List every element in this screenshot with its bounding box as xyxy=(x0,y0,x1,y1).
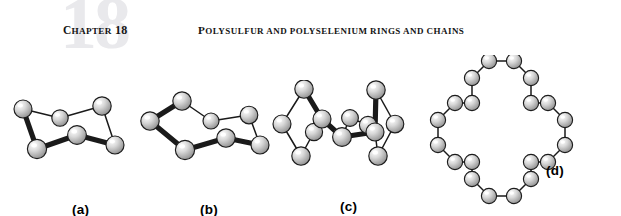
atom-highlight xyxy=(370,127,375,131)
atom-sphere xyxy=(506,55,521,69)
atom-sphere xyxy=(217,129,235,147)
atom-sphere xyxy=(366,123,384,141)
atom-highlight xyxy=(144,115,150,119)
atom-highlight xyxy=(55,113,60,117)
atom-highlight xyxy=(560,115,565,118)
atom-sphere xyxy=(557,137,572,152)
atom-highlight xyxy=(345,113,350,117)
atom-highlight xyxy=(450,98,455,101)
atom-highlight xyxy=(336,131,342,135)
atom-sphere xyxy=(447,154,462,169)
molecular-structures-figure: (a) (b) (c) (d) xyxy=(0,55,621,216)
atom-sphere xyxy=(173,92,191,110)
atom-sphere xyxy=(175,140,194,159)
atom-highlight xyxy=(484,56,489,59)
panel-label-c: (c) xyxy=(340,199,357,214)
atom-highlight xyxy=(467,73,472,76)
panel-b-canvas xyxy=(138,83,278,173)
atom-highlight xyxy=(543,157,548,160)
atom-sphere xyxy=(273,115,291,133)
atom-sphere xyxy=(93,97,111,115)
atom-highlight xyxy=(433,115,438,118)
atom-sphere xyxy=(523,70,538,85)
chapter-label: CHAPTER 18 xyxy=(63,23,128,38)
atom-sphere xyxy=(430,137,445,152)
atom-highlight xyxy=(110,140,115,144)
atom-sphere xyxy=(240,106,258,124)
structure-panel-d xyxy=(414,55,604,215)
atom-highlight xyxy=(255,140,260,144)
atom-sphere xyxy=(464,171,479,186)
running-head: POLYSULFUR AND POLYSELENIUM RINGS AND CH… xyxy=(198,24,464,36)
atom-sphere xyxy=(540,95,555,110)
atom-sphere xyxy=(481,55,496,69)
atom-sphere xyxy=(292,147,310,165)
atom-highlight xyxy=(526,98,531,101)
chapter-number: 18 xyxy=(115,23,128,37)
atom-group xyxy=(273,80,404,165)
atom-sphere xyxy=(68,126,87,145)
atom-sphere xyxy=(295,80,313,98)
atom-highlight xyxy=(390,119,395,123)
atom-sphere xyxy=(447,95,462,110)
atom-highlight xyxy=(179,144,185,148)
atom-highlight xyxy=(467,174,472,177)
atom-sphere xyxy=(251,136,269,154)
atom-sphere xyxy=(369,147,387,165)
panel-a-canvas xyxy=(12,83,137,173)
atom-highlight xyxy=(220,132,226,136)
chapter-label-lead: C xyxy=(63,24,72,36)
atom-sphere xyxy=(506,188,521,203)
panel-d-canvas xyxy=(414,55,604,215)
atom-sphere xyxy=(106,136,124,154)
page-header: 18 CHAPTER 18 POLYSULFUR AND POLYSELENIU… xyxy=(0,0,621,60)
panel-label-b: (b) xyxy=(200,202,218,216)
atom-sphere xyxy=(333,128,352,147)
atom-sphere xyxy=(464,95,479,110)
atom-highlight xyxy=(467,98,472,101)
atom-sphere xyxy=(464,70,479,85)
atom-highlight xyxy=(363,120,368,124)
atom-sphere xyxy=(141,112,159,130)
atom-sphere xyxy=(367,81,385,99)
structure-panel-b xyxy=(138,83,278,173)
atom-highlight xyxy=(96,100,102,104)
atom-sphere xyxy=(464,154,479,169)
structure-panel-c xyxy=(272,80,412,175)
atom-highlight xyxy=(484,191,489,194)
atom-highlight xyxy=(467,157,472,160)
atom-highlight xyxy=(370,84,376,88)
atom-highlight xyxy=(526,174,531,177)
atom-group xyxy=(141,92,269,160)
panel-label-a: (a) xyxy=(72,202,89,216)
atom-highlight xyxy=(309,127,314,131)
atom-highlight xyxy=(244,110,249,114)
atom-sphere xyxy=(203,113,219,129)
atom-highlight xyxy=(509,56,514,59)
atom-highlight xyxy=(509,191,514,194)
atom-highlight xyxy=(31,143,37,147)
panel-c-canvas xyxy=(272,80,412,175)
atom-sphere xyxy=(386,115,404,133)
atom-highlight xyxy=(526,157,531,160)
structure-panel-a xyxy=(12,83,137,173)
atom-highlight xyxy=(317,114,322,118)
running-head-rest: OLYSULFUR AND POLYSELENIUM RINGS AND CHA… xyxy=(205,26,464,36)
atom-highlight xyxy=(526,73,531,76)
panel-label-d: (d) xyxy=(546,163,564,178)
atom-sphere xyxy=(523,154,538,169)
atom-sphere xyxy=(481,188,496,203)
atom-sphere xyxy=(52,110,68,126)
atom-highlight xyxy=(372,150,378,154)
atom-group xyxy=(430,55,572,204)
atom-sphere xyxy=(27,139,46,158)
atom-sphere xyxy=(523,171,538,186)
atom-highlight xyxy=(295,150,301,154)
atom-highlight xyxy=(433,140,438,143)
atom-highlight xyxy=(206,116,211,120)
atom-highlight xyxy=(298,83,304,87)
atom-highlight xyxy=(18,104,23,108)
atom-highlight xyxy=(543,98,548,101)
atom-sphere xyxy=(557,112,572,127)
atom-sphere xyxy=(430,112,445,127)
